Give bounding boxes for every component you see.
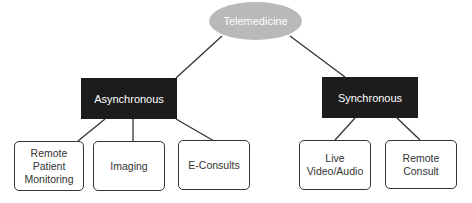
e-consults-node: E-Consults bbox=[178, 140, 250, 190]
telemedicine-node: Telemedicine bbox=[209, 2, 302, 40]
asynchronous-node: Asynchronous bbox=[81, 78, 177, 119]
remote-consult-node: Remote Consult bbox=[385, 140, 457, 189]
imaging-label: Imaging bbox=[110, 160, 147, 173]
synchronous-node: Synchronous bbox=[322, 77, 418, 118]
live-video-audio-node: Live Video/Audio bbox=[299, 140, 371, 190]
synchronous-label: Synchronous bbox=[338, 92, 402, 104]
imaging-node: Imaging bbox=[93, 141, 165, 191]
asynchronous-label: Asynchronous bbox=[94, 93, 164, 105]
remote-consult-label: Remote Consult bbox=[386, 152, 456, 178]
e-consults-label: E-Consults bbox=[188, 159, 239, 172]
remote-patient-monitoring-label: Remote Patient Monitoring bbox=[15, 147, 83, 186]
live-video-audio-label: Live Video/Audio bbox=[300, 152, 370, 178]
telemedicine-label: Telemedicine bbox=[223, 15, 287, 27]
remote-patient-monitoring-node: Remote Patient Monitoring bbox=[14, 141, 84, 191]
